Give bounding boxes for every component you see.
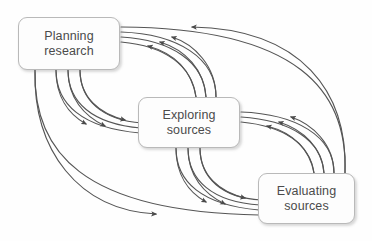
edge-exploring-to-planning-3 <box>121 32 216 97</box>
node-evaluating-sources-label: Evaluating sources <box>273 184 340 213</box>
edge-evaluating-to-exploring-1-head <box>267 126 314 173</box>
node-exploring-sources[interactable]: Exploring sources <box>138 97 240 148</box>
edge-exploring-to-evaluating-3 <box>200 148 261 200</box>
edge-evaluating-to-exploring <box>241 112 334 173</box>
node-planning-research[interactable]: Planning research <box>18 17 120 70</box>
edge-exploring-to-planning <box>121 32 216 97</box>
node-planning-research-label: Planning research <box>40 29 97 58</box>
edge-exploring-to-planning-1-head <box>148 46 196 97</box>
edge-planning-to-exploring <box>56 70 142 133</box>
node-evaluating-sources[interactable]: Evaluating sources <box>258 173 355 224</box>
edge-exploring-to-evaluating-2 <box>188 148 260 205</box>
edge-exploring-to-planning-2 <box>121 37 206 97</box>
diagram-canvas: Planning research Exploring sources Eval… <box>0 0 372 241</box>
edge-planning-to-exploring-3-head <box>80 70 125 120</box>
edge-exploring-to-planning-2-head <box>160 42 206 97</box>
edge-evaluating-to-exploring-2-head <box>279 122 324 173</box>
edge-exploring-to-evaluating <box>176 148 261 210</box>
node-exploring-sources-label: Exploring sources <box>158 108 219 137</box>
edge-evaluating-to-exploring-3 <box>241 112 334 173</box>
edge-exploring-to-evaluating-3-head <box>200 148 245 198</box>
